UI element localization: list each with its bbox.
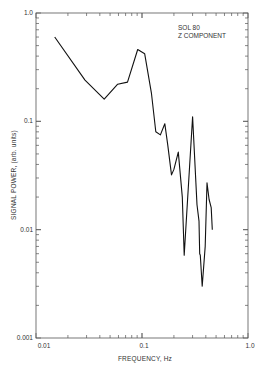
plot-frame (36, 13, 248, 338)
annotation-sol: SOL 80 (178, 24, 200, 31)
annotation-component: Z COMPONENT (178, 32, 226, 39)
y-axis-title: SIGNAL POWER, (arb. units) (10, 130, 18, 220)
y-tick-label-1: 1.0 (24, 9, 33, 16)
y-tick-label-0.001: 0.001 (17, 334, 34, 341)
x-axis-title: FREQUENCY, Hz (118, 355, 172, 363)
x-tick-label-0.1: 0.1 (139, 342, 148, 349)
chart: 1.0 0.1 0.01 0.001 0.01 0.1 1.0 FREQUENC… (0, 0, 265, 368)
y-tick-label-0.1: 0.1 (24, 117, 33, 124)
y-tick-label-0.01: 0.01 (20, 226, 33, 233)
x-tick-label-0.01: 0.01 (38, 342, 51, 349)
data-series-line (55, 37, 213, 286)
x-tick-label-1.0: 1.0 (245, 342, 254, 349)
axis-ticks (36, 13, 248, 338)
